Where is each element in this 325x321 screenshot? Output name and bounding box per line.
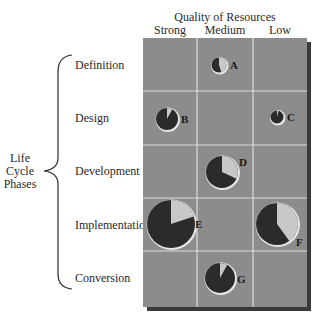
column-header-strong: Strong [154, 23, 186, 37]
row-label-implementation: Implementation [75, 218, 151, 232]
group-label-line-1: Life [10, 151, 30, 165]
pie-label: G [237, 273, 246, 285]
row-label-conversion: Conversion [75, 271, 130, 285]
pie-label: C [287, 111, 295, 123]
row-label-definition: Definition [75, 58, 124, 72]
risk-matrix-diagram: Quality of Resources Strong Medium Low L… [0, 0, 325, 321]
row-labels: Definition Design Development Implementa… [75, 58, 151, 285]
column-header-medium: Medium [205, 23, 246, 37]
y-axis-group-label: Life Cycle Phases [4, 151, 37, 191]
pie-label: D [239, 156, 247, 168]
curly-brace-icon [44, 55, 72, 289]
group-label-line-2: Cycle [6, 164, 34, 178]
row-label-design: Design [75, 111, 109, 125]
x-axis-title: Quality of Resources [174, 10, 276, 24]
pie-label: B [181, 113, 189, 125]
pie-label: F [296, 236, 303, 248]
pie-label: E [195, 218, 202, 230]
column-headers: Strong Medium Low [154, 23, 291, 37]
group-label-line-3: Phases [4, 177, 37, 191]
column-header-low: Low [269, 23, 291, 37]
row-label-development: Development [75, 164, 140, 178]
pie-label: A [230, 59, 238, 71]
